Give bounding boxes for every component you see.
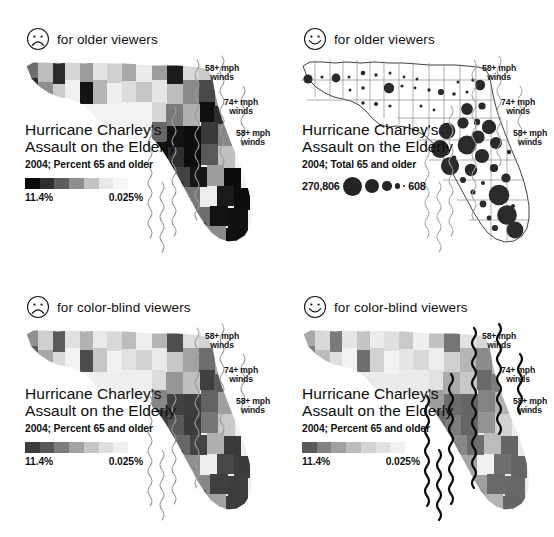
legend-ramp-labels: 11.4% 0.025%: [302, 456, 420, 467]
legend-color-ramp: [25, 442, 128, 453]
map-title-line2: Assault on the Elderly: [302, 139, 453, 156]
panel-caption: for older viewers: [334, 32, 435, 47]
map-title-line1: Hurricane Charley's: [302, 386, 453, 403]
wind-label-58-north: 58+ mphwinds: [205, 64, 239, 83]
panel-grid: for older viewers Hurricane Charley's As…: [0, 0, 554, 537]
legend-low-value: 0.025%: [386, 456, 420, 467]
smiling-face-icon: [303, 27, 327, 51]
legend-graduated-symbols: 270,806 608: [302, 177, 453, 196]
panel-caption: for color-blind viewers: [57, 300, 191, 315]
legend-ramp-wrapper: 11.4% 0.025%: [302, 442, 453, 467]
legend-circle-3: [382, 181, 392, 191]
map-title-line2: Assault on the Elderly: [25, 139, 176, 156]
wind-label-58-south: 58+ mphwinds: [236, 129, 270, 148]
legend-circle-1: [343, 177, 362, 196]
map-title-line1: Hurricane Charley's: [25, 122, 176, 139]
panel-header-bottom-right: for color-blind viewers: [303, 295, 468, 319]
legend-ramp-wrapper: 11.4% 0.025%: [25, 178, 176, 203]
legend-high-value: 270,806: [302, 180, 340, 192]
legend-high-value: 11.4%: [25, 456, 53, 467]
legend-circle-5: [403, 185, 405, 187]
wind-label-58-south: 58+ mphwinds: [236, 397, 270, 416]
map-subtitle: 2004; Percent 65 and older: [302, 422, 453, 435]
title-block-top-left: Hurricane Charley's Assault on the Elder…: [25, 122, 176, 203]
legend-ramp-wrapper: 11.4% 0.025%: [25, 442, 176, 467]
wind-label-74: 74+ mphwinds: [501, 366, 535, 385]
legend-low-value: 0.025%: [109, 192, 143, 203]
map-subtitle: 2004; Percent 65 and older: [25, 158, 176, 171]
panel-caption: for older viewers: [57, 32, 158, 47]
panel-header-top-right: for older viewers: [303, 27, 435, 51]
wind-label-58-north: 58+ mphwinds: [205, 332, 239, 351]
legend-color-ramp: [302, 442, 405, 453]
panel-bottom-left: for color-blind viewers Hurricane Charle…: [0, 268, 277, 537]
panel-caption: for color-blind viewers: [334, 300, 468, 315]
wind-label-58-north: 58+ mphwinds: [482, 64, 516, 83]
wind-label-58-south: 58+ mphwinds: [513, 397, 547, 416]
panel-header-bottom-left: for color-blind viewers: [26, 295, 191, 319]
wind-label-74: 74+ mphwinds: [224, 98, 258, 117]
panel-top-right: for older viewers Hurricane Charley's As…: [277, 0, 554, 268]
title-block-bottom-right: Hurricane Charley's Assault on the Elder…: [302, 386, 453, 467]
panel-header-top-left: for older viewers: [26, 27, 158, 51]
legend-color-ramp: [25, 178, 128, 189]
legend-ramp-labels: 11.4% 0.025%: [25, 456, 143, 467]
map-title-line2: Assault on the Elderly: [302, 403, 453, 420]
map-title-line1: Hurricane Charley's: [302, 122, 453, 139]
legend-circle-2: [365, 179, 379, 193]
map-subtitle: 2004; Percent 65 and older: [25, 422, 176, 435]
wind-label-58-south: 58+ mphwinds: [513, 129, 547, 148]
legend-low-value: 608: [408, 180, 425, 192]
panel-bottom-right: for color-blind viewers Hurricane Charle…: [277, 268, 554, 537]
legend-circle-4: [395, 183, 400, 188]
legend-low-value: 0.025%: [109, 456, 143, 467]
legend-ramp-labels: 11.4% 0.025%: [25, 192, 143, 203]
map-title-line1: Hurricane Charley's: [25, 386, 176, 403]
map-title-line2: Assault on the Elderly: [25, 403, 176, 420]
wind-label-58-north: 58+ mphwinds: [482, 332, 516, 351]
wind-label-74: 74+ mphwinds: [224, 366, 258, 385]
legend-high-value: 11.4%: [302, 456, 330, 467]
frowning-face-icon: [26, 295, 50, 319]
legend-high-value: 11.4%: [25, 192, 53, 203]
wind-label-74: 74+ mphwinds: [501, 98, 535, 117]
frowning-face-icon: [26, 27, 50, 51]
title-block-bottom-left: Hurricane Charley's Assault on the Elder…: [25, 386, 176, 467]
title-block-top-right: Hurricane Charley's Assault on the Elder…: [302, 122, 453, 196]
map-subtitle: 2004; Total 65 and older: [302, 158, 453, 171]
panel-top-left: for older viewers Hurricane Charley's As…: [0, 0, 277, 268]
smiling-face-icon: [303, 295, 327, 319]
